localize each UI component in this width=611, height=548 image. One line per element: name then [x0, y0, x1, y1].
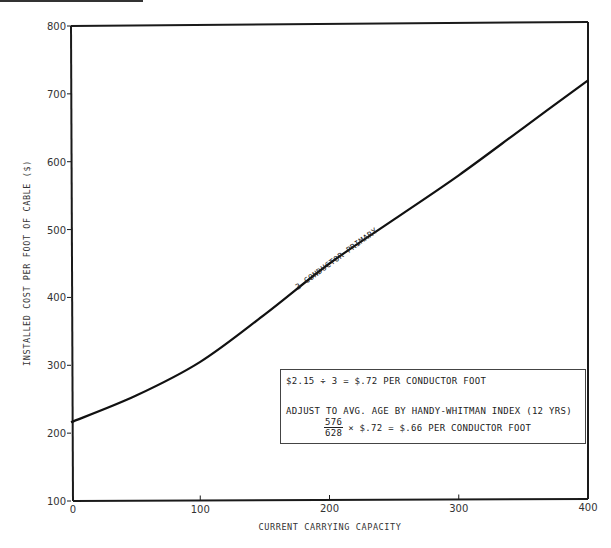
x-tick-label: 300 — [449, 503, 468, 514]
fraction-denominator: 628 — [325, 428, 342, 438]
y-tick-label: 500 — [47, 225, 66, 236]
y-tick-label: 100 — [47, 496, 66, 507]
x-tick-label: 200 — [320, 503, 339, 514]
x-axis-ticks: 0100200300400 — [70, 495, 598, 516]
note-adjusted-cost: 576 628 × $.72 = $.66 PER CONDUCTOR FOOT — [324, 417, 531, 438]
x-axis-title: CURRENT CARRYING CAPACITY — [259, 522, 402, 532]
x-tick-label: 0 — [70, 504, 76, 515]
y-tick-label: 200 — [47, 428, 66, 439]
y-tick-label: 300 — [47, 360, 66, 371]
fraction-numerator: 576 — [324, 417, 343, 428]
y-tick-label: 700 — [47, 89, 66, 100]
note-cost-per-conductor: $2.15 ÷ 3 = $.72 PER CONDUCTOR FOOT — [286, 376, 486, 386]
note-adjusted-result: × $.72 = $.66 PER CONDUCTOR FOOT — [348, 423, 531, 433]
y-axis-title: INSTALLED COST PER FOOT OF CABLE ($) — [22, 160, 32, 366]
chart-canvas: 100200300400500600700800 0100200300400 3… — [0, 0, 611, 548]
curve-label: 3 CONDUCTOR PRIMARY — [294, 226, 379, 292]
note-adjust-index: ADJUST TO AVG. AGE BY HANDY-WHITMAN INDE… — [286, 406, 572, 416]
calculation-note-box: $2.15 ÷ 3 = $.72 PER CONDUCTOR FOOT ADJU… — [280, 369, 586, 444]
y-tick-label: 800 — [47, 21, 66, 32]
index-fraction: 576 628 — [324, 417, 343, 438]
y-tick-label: 400 — [47, 292, 66, 303]
y-axis-ticks: 100200300400500600700800 — [47, 21, 71, 507]
x-tick-label: 400 — [578, 502, 597, 513]
x-tick-label: 100 — [191, 504, 210, 515]
y-tick-label: 600 — [47, 157, 66, 168]
